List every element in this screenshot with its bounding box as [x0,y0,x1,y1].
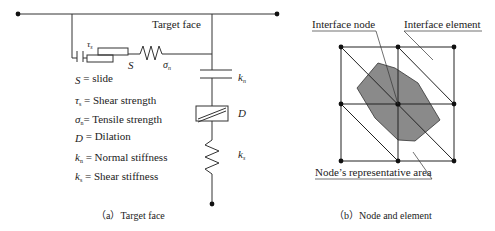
sigma-symbol: σn [163,59,171,71]
slide-block-lower [87,55,113,62]
right-node-dot [275,12,280,17]
caption-a: （a）Target face [96,210,165,221]
target-face-label: Target face [152,18,201,30]
slide-symbol: S [128,59,134,71]
legend-item: D = Dilation [74,130,131,144]
tau-symbol: τs [87,39,93,50]
figure: Target face τs S σn kn D ks S = slide τs… [0,0,495,231]
representative-area-label: Node’s representative area [315,166,432,178]
slide-block-upper [98,48,128,55]
dilation-symbol: D [237,107,246,119]
legend-item: σn= Tensile strength [75,113,162,126]
interface-node-label: Interface node [312,18,375,30]
legend: S = slide τs = Shear strength σn= Tensil… [74,72,167,183]
legend-item: kn = Normal stiffness [75,151,167,164]
panel-b-node-element [312,31,482,179]
legend-item: τs = Shear strength [75,94,157,107]
legend-item: ks = Shear stiffness [75,170,158,183]
ks-symbol: ks [238,148,246,161]
legend-item: S = slide [75,72,113,86]
tensile-spring [140,46,162,60]
interface-element-leader [404,31,433,60]
kn-symbol: kn [238,71,246,84]
left-node-dot [16,12,21,17]
shear-spring [205,140,219,174]
bottom-node-dot [210,202,215,207]
interface-element-label: Interface element [404,18,481,30]
caption-b: （b）Node and element [334,210,432,221]
